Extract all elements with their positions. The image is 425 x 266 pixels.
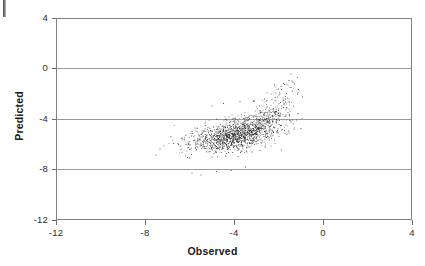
chart-figure: 4 0 -4 -8 -12 -12 -8 -4 0 4 Observed Pre… [0,0,425,266]
y-tick-label-0: 0 [18,63,48,73]
x-tick-mark-4 [412,220,413,225]
y-axis-title: Predicted [13,76,25,156]
y-tick-label-m12: -12 [18,215,48,225]
y-tick-label-m8: -8 [18,164,48,174]
x-axis-title: Observed [0,245,425,257]
scatter-canvas [57,19,411,219]
x-tick-label-m8: -8 [128,228,162,238]
scan-artifact-mark [3,0,6,17]
x-tick-mark-m8 [145,220,146,225]
x-tick-label-0: 0 [306,228,340,238]
x-tick-label-m4: -4 [217,228,251,238]
scatter-points-layer [57,19,411,219]
y-tick-label-4: 4 [18,13,48,23]
x-tick-mark-0 [323,220,324,225]
plot-area [56,18,412,220]
x-tick-mark-m12 [56,220,57,225]
x-tick-mark-m4 [234,220,235,225]
x-tick-label-4: 4 [395,228,425,238]
x-tick-label-m12: -12 [39,228,73,238]
